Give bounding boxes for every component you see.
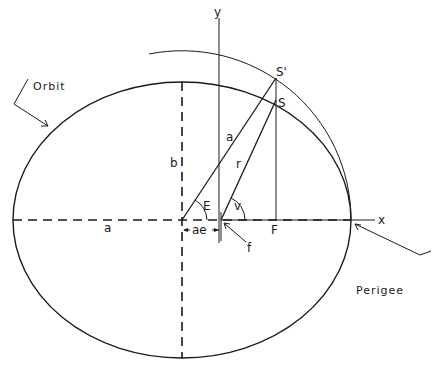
perigee-arrow-icon (355, 224, 361, 230)
a-axis-label: a (104, 221, 111, 235)
ae-arrow-right-icon (214, 228, 219, 232)
v-anomaly-label: v (234, 199, 241, 213)
f-foot-label: F (271, 223, 278, 237)
ae-label: ae (192, 223, 207, 237)
orbit-diagram: Orbit Perigee y x S' S F f a r b a E v a… (0, 0, 440, 373)
center-to-s-prime-line (182, 78, 276, 220)
x-axis-label: x (378, 213, 385, 227)
b-label: b (170, 156, 178, 170)
s-label: S (278, 96, 286, 110)
focus-label: f (247, 241, 252, 255)
orbit-label: Orbit (33, 80, 66, 93)
radius-vector-line (221, 100, 276, 220)
y-axis-label: y (214, 5, 221, 19)
perigee-label: Perigee (356, 284, 404, 297)
e-anomaly-label: E (203, 199, 211, 213)
auxiliary-circle-arc (149, 51, 351, 220)
focus-leader-line (225, 224, 246, 242)
a-radius-label: a (226, 130, 233, 144)
ae-arrow-left-icon (183, 228, 188, 232)
r-label: r (236, 157, 241, 171)
s-prime-label: S' (276, 65, 287, 79)
perigee-leader-line (355, 224, 431, 255)
